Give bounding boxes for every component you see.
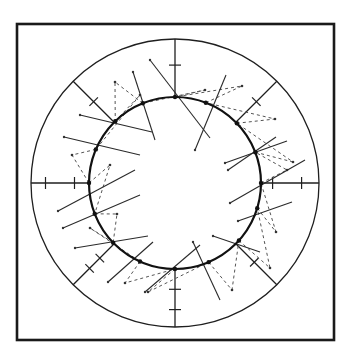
radial-line: [73, 244, 114, 285]
ring-node: [93, 212, 97, 216]
bond-tip: [269, 267, 272, 270]
ring-node: [94, 147, 98, 151]
radial-line: [236, 244, 277, 285]
bond-tip: [241, 85, 244, 88]
radial-lines: [31, 39, 319, 327]
solid-bond: [230, 160, 305, 203]
bond-tip: [227, 169, 229, 171]
bond-tip: [229, 202, 231, 204]
bond-tip: [57, 210, 59, 212]
ring-node: [255, 206, 259, 210]
dashed-bond: [96, 95, 140, 149]
bond-tip: [107, 281, 109, 283]
solid-bond: [108, 242, 153, 282]
bond-tip: [231, 289, 234, 292]
bond-tip: [237, 220, 239, 222]
bond-tip: [204, 89, 207, 92]
bond-tip: [144, 291, 146, 293]
bond-tip: [192, 241, 194, 243]
ring-node: [206, 260, 210, 264]
ring-node: [173, 267, 177, 271]
bond-tip: [74, 247, 76, 249]
solid-bond: [228, 137, 276, 170]
bond-tip: [116, 213, 119, 216]
dashed-bond: [72, 149, 96, 183]
bond-tip: [63, 136, 65, 138]
bond-tip: [194, 149, 196, 151]
bond-tip: [132, 71, 134, 73]
dashed-bond: [206, 103, 275, 124]
solid-bond: [80, 115, 152, 132]
bond-tip: [149, 59, 151, 61]
ring-diagram: [0, 0, 350, 355]
ring-node: [237, 238, 241, 242]
ring-node: [111, 241, 115, 245]
bond-tip: [292, 161, 295, 164]
solid-bond: [64, 137, 140, 155]
ring-node: [138, 259, 142, 263]
ring-node: [204, 101, 208, 105]
bond-tip: [109, 164, 112, 167]
dashed-bond: [209, 241, 239, 290]
solid-bond: [63, 195, 140, 228]
ring-node: [253, 150, 257, 154]
ring-node: [235, 121, 239, 125]
bond-tip: [79, 114, 81, 116]
bond-tip: [114, 81, 117, 84]
solid-bond: [58, 170, 135, 211]
bond-tip: [62, 227, 64, 229]
ring-node: [113, 119, 117, 123]
bond-tip: [274, 118, 277, 121]
solid-bond: [195, 75, 226, 150]
bond-tip: [89, 227, 92, 230]
bond-tip: [147, 291, 150, 294]
ring-node: [87, 181, 91, 185]
ring-node: [259, 181, 263, 185]
bond-tip: [224, 162, 226, 164]
bond-tip: [71, 154, 74, 157]
bond-tip: [275, 231, 278, 234]
dashed-bond: [175, 86, 242, 103]
bond-tip: [212, 235, 214, 237]
ring-node: [141, 101, 145, 105]
ring-node: [173, 95, 177, 99]
bond-tip: [124, 282, 127, 285]
solid-bond: [193, 242, 220, 300]
